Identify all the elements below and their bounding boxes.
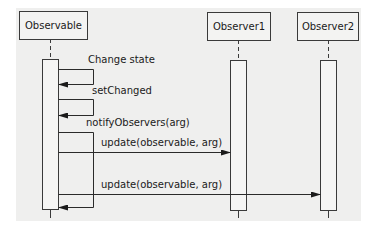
activation-bar-observable <box>43 60 59 210</box>
participant-label: Observer1 <box>213 21 265 32</box>
participant-observer1: Observer1 <box>207 12 271 41</box>
message-label-change-state: Change state <box>88 54 155 65</box>
participant-label: Observable <box>25 20 82 31</box>
participant-label: Observer2 <box>302 21 354 32</box>
activation-bar-observer1 <box>231 61 247 211</box>
activation-bar-observer2 <box>321 61 337 211</box>
participant-observable: Observable <box>19 11 88 40</box>
message-label-notify-observers: notifyObservers(arg) <box>86 117 190 128</box>
message-label-set-changed: setChanged <box>92 85 152 96</box>
message-label-update-observer1: update(observable, arg) <box>101 137 222 148</box>
participant-observer2: Observer2 <box>297 12 359 41</box>
message-label-update-observer2: update(observable, arg) <box>101 179 222 190</box>
